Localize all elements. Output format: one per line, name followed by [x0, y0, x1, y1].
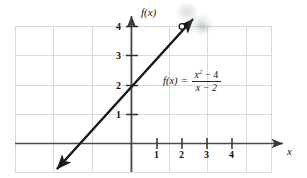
- numerator-exponent: 2: [199, 68, 202, 75]
- equation-equals-sign: =: [182, 75, 188, 86]
- x-tick-label-2: 2: [179, 150, 184, 160]
- function-equation-annotation: f(x) = x2− 4 x − 2: [163, 68, 221, 93]
- equation-denominator: x − 2: [193, 82, 220, 93]
- equation-fraction: x2− 4 x − 2: [192, 68, 222, 93]
- function-graph-figure: f(x) x 1 2 3 4 1 2 3 4 f(x) = x2− 4 x − …: [0, 0, 307, 178]
- equation-lhs: f(x): [163, 75, 178, 86]
- y-tick-label-2: 2: [116, 81, 121, 91]
- y-tick-label-4: 4: [116, 22, 121, 32]
- y-axis-label: f(x): [141, 7, 156, 18]
- y-tick-label-1: 1: [116, 110, 121, 120]
- x-tick-label-1: 1: [154, 150, 159, 160]
- equation-numerator: x2− 4: [192, 68, 222, 81]
- x-tick-label-4: 4: [229, 150, 234, 160]
- x-tick-label-3: 3: [204, 150, 209, 160]
- numerator-rest: − 4: [205, 69, 218, 80]
- axes: [15, 16, 283, 172]
- function-curve: [57, 19, 193, 169]
- removable-discontinuity-hole: [179, 24, 185, 30]
- y-tick-label-3: 3: [116, 51, 121, 61]
- x-axis-label: x: [287, 146, 292, 157]
